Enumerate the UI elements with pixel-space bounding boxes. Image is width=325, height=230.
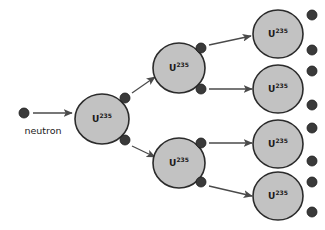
uranium-nucleus: U235 xyxy=(253,120,303,168)
neutron-particle xyxy=(196,177,206,187)
fission-chain-reaction-diagram: U235U235U235U235U235U235U235 neutron xyxy=(0,0,325,230)
neutron-particle xyxy=(19,108,29,118)
neutron-arrow xyxy=(209,36,251,45)
element-symbol: U xyxy=(268,29,275,39)
uranium-nucleus: U235 xyxy=(253,172,303,220)
neutron-particle xyxy=(307,100,317,110)
mass-number: 235 xyxy=(275,27,288,34)
neutron-particle xyxy=(307,177,317,187)
element-symbol: U xyxy=(169,63,176,73)
mass-number: 235 xyxy=(275,137,288,144)
mass-number: 235 xyxy=(275,82,288,89)
neutron-arrow xyxy=(209,186,252,196)
neutron-caption-label: neutron xyxy=(24,125,61,136)
neutron-arrow xyxy=(132,146,155,157)
element-symbol: U xyxy=(268,139,275,149)
neutron-particle xyxy=(307,207,317,217)
neutron-particle xyxy=(120,93,130,103)
uranium-nucleus: U235 xyxy=(253,65,303,113)
neutron-particle xyxy=(196,43,206,53)
neutron-particle xyxy=(307,45,317,55)
element-symbol: U xyxy=(169,158,176,168)
element-symbol: U xyxy=(92,114,99,124)
neutron-particle xyxy=(307,10,317,20)
uranium-nucleus: U235 xyxy=(253,10,303,58)
fission-diagram-canvas: U235U235U235U235U235U235U235 neutron xyxy=(0,0,325,230)
neutron-flight-arrows xyxy=(33,36,252,196)
neutron-particle xyxy=(307,156,317,166)
neutron-particle xyxy=(307,123,317,133)
mass-number: 235 xyxy=(176,61,189,68)
neutron-arrow xyxy=(132,77,155,93)
neutron-particle xyxy=(307,66,317,76)
element-symbol: U xyxy=(268,191,275,201)
mass-number: 235 xyxy=(99,112,112,119)
mass-number: 235 xyxy=(176,156,189,163)
element-symbol: U xyxy=(268,84,275,94)
mass-number: 235 xyxy=(275,189,288,196)
neutron-particle xyxy=(120,135,130,145)
neutron-particle xyxy=(196,138,206,148)
neutron-particle xyxy=(196,84,206,94)
uranium-nuclei: U235U235U235U235U235U235U235 xyxy=(75,10,303,220)
